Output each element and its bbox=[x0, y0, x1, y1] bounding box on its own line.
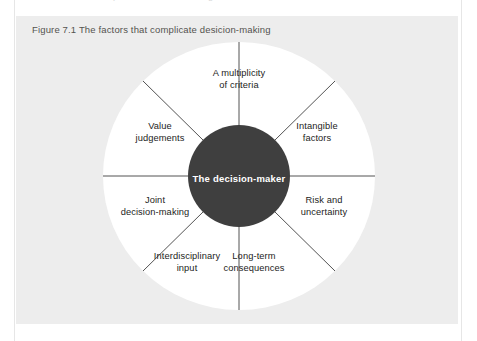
sector-label-line1: Interdisciplinary bbox=[154, 251, 220, 263]
sector-label-intangible: Intangible factors bbox=[296, 121, 337, 144]
sector-label-line1: Intangible bbox=[296, 121, 337, 133]
figure-caption: Figure 7.1 The factors that complicate d… bbox=[32, 24, 271, 35]
sector-label-line2: consequences bbox=[223, 263, 284, 275]
sector-label-line1: Value bbox=[135, 121, 184, 133]
sector-label-line2: judgements bbox=[135, 133, 184, 145]
sector-label-line2: of criteria bbox=[213, 80, 266, 92]
sector-label-line1: Long-term bbox=[223, 251, 284, 263]
page-top-sliver: complicate decision-making bbox=[0, 0, 477, 11]
sector-label-value: Value judgements bbox=[135, 121, 184, 144]
sector-label-joint: Joint decision-making bbox=[121, 195, 190, 218]
sector-label-line1: Joint bbox=[121, 195, 190, 207]
page-edge-left bbox=[14, 0, 15, 341]
cut-off-text-above: complicate decision-making bbox=[95, 0, 213, 1]
sector-label-line2: factors bbox=[296, 133, 337, 145]
radial-wheel-diagram: The decision-maker A multiplicity of cri… bbox=[103, 42, 375, 310]
sector-label-long-term: Long-term consequences bbox=[223, 251, 284, 274]
wheel-hub bbox=[188, 125, 290, 227]
sector-label-line2: decision-making bbox=[121, 207, 190, 219]
sector-label-multiplicity: A multiplicity of criteria bbox=[213, 68, 266, 91]
sector-label-line1: Risk and bbox=[301, 195, 348, 207]
sector-label-line2: input bbox=[154, 263, 220, 275]
sector-label-risk: Risk and uncertainty bbox=[301, 195, 348, 218]
page-edge-right bbox=[461, 0, 462, 341]
sector-label-interdisciplinary: Interdisciplinary input bbox=[154, 251, 220, 274]
sector-label-line1: A multiplicity bbox=[213, 68, 266, 80]
sector-label-line2: uncertainty bbox=[301, 207, 348, 219]
figure-panel: Figure 7.1 The factors that complicate d… bbox=[16, 16, 458, 324]
